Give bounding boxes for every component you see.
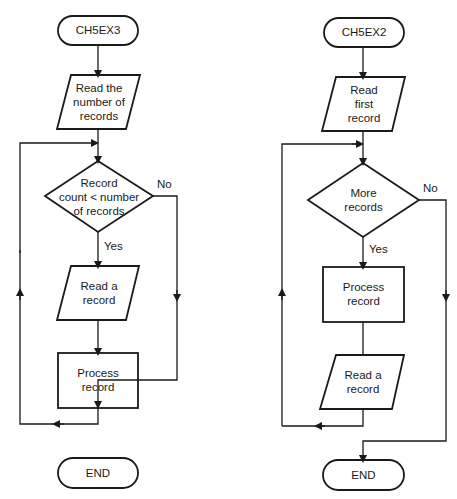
- step-label-process-record: Process record: [58, 366, 138, 394]
- step-label-read-first: Read first record: [325, 83, 403, 125]
- edge-label-no-2: No: [423, 182, 438, 194]
- decision-label-more-records: More records: [308, 186, 419, 214]
- edge-label-yes: Yes: [104, 240, 123, 252]
- decision-label-record-count: Record count < number of records: [45, 176, 153, 218]
- edge-label-no: No: [157, 178, 172, 190]
- edge-label-yes-2: Yes: [369, 243, 388, 255]
- step-label-read-count: Read the number of records: [60, 81, 138, 123]
- start-label-ch5ex3: CH5EX3: [58, 23, 138, 37]
- step-label-read-record-2: Read a record: [324, 368, 402, 396]
- end-label-ch5ex3: END: [58, 466, 138, 480]
- step-label-process-record-2: Process record: [323, 280, 404, 308]
- flowchart-shapes: [0, 0, 457, 499]
- flowchart-canvas: CH5EX3 Read the number of records Record…: [0, 0, 457, 499]
- end-label-ch5ex2: END: [323, 468, 404, 482]
- step-label-read-record: Read a record: [60, 279, 138, 307]
- start-label-ch5ex2: CH5EX2: [324, 25, 404, 39]
